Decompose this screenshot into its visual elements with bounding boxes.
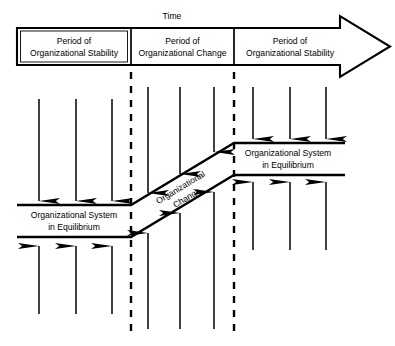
arrows-left-down [39,99,112,201]
period-3-line1: Period of [273,36,308,46]
arrows-left-up [39,246,112,314]
band-label-left: Organizational System in Equilibrium [31,210,117,232]
arrows-right-up [253,182,326,250]
period-1-line1: Period of [57,36,92,46]
left-band-line2: in Equilibrium [48,222,100,232]
period-3-line2: Organizational Stability [246,48,335,58]
time-label: Time [163,11,182,21]
arrows-right-down [253,87,326,139]
band-label-right: Organizational System in Equilibrium [245,148,331,170]
period-1-line2: Organizational Stability [30,48,119,58]
period-2-line2: Organizational Change [139,48,227,58]
left-band-line1: Organizational System [31,210,117,220]
time-banner [17,16,390,77]
right-band-line1: Organizational System [245,148,331,158]
diagram-canvas: Time Period of Organizational Stability … [0,0,395,346]
right-band-line2: in Equilibrium [262,160,314,170]
organizational-change-diagram: Time Period of Organizational Stability … [0,0,395,346]
period-2-line1: Period of [165,36,200,46]
arrows-middle-up [148,192,214,329]
